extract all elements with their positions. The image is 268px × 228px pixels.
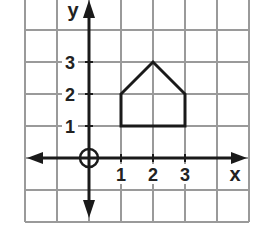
grid-lines [25,0,249,222]
y-axis-arrow-down-icon [83,200,95,218]
x-tick-label: 2 [148,165,158,185]
coordinate-plane: 123123xy [0,0,268,228]
axes [27,0,247,218]
coordinate-grid-svg: 123123xy [0,0,268,228]
x-tick-label: 3 [180,165,190,185]
y-axis-label: y [67,0,79,21]
y-tick-label: 2 [65,85,75,105]
y-tick-label: 1 [65,117,75,137]
y-tick-label: 3 [65,53,75,73]
x-axis-arrow-left-icon [27,152,43,164]
x-axis-label: x [229,163,240,185]
x-tick-label: 1 [116,165,126,185]
y-axis-arrow-up-icon [83,0,95,18]
